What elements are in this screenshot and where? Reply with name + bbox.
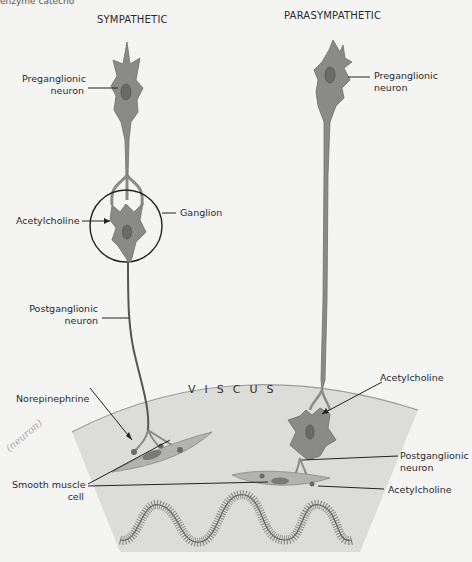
sympathetic-postganglionic-neuron bbox=[110, 203, 146, 262]
label-ganglion: Ganglion bbox=[180, 207, 222, 219]
label-para-acetylcholine-ganglion: Acetylcholine bbox=[380, 372, 444, 384]
label-para-postganglionic: Postganglionic neuron bbox=[400, 450, 469, 474]
label-sym-acetylcholine: Acetylcholine bbox=[16, 215, 80, 227]
label-norepinephrine: Norepinephrine bbox=[16, 393, 89, 405]
heading-sympathetic: SYMPATHETIC bbox=[97, 14, 168, 25]
heading-parasympathetic: PARASYMPATHETIC bbox=[284, 10, 381, 21]
label-para-preganglionic: Preganglionic neuron bbox=[374, 70, 438, 94]
label-sym-preganglionic: Preganglionic neuron bbox=[22, 73, 84, 97]
label-smooth-muscle-cell: Smooth muscle cell bbox=[12, 479, 84, 503]
label-para-acetylcholine-effector: Acetylcholine bbox=[388, 484, 452, 496]
viscus-label: VISCUS bbox=[188, 383, 282, 396]
sympathetic-preganglionic-neuron bbox=[111, 42, 143, 175]
label-sym-postganglionic: Postganglionic neuron bbox=[22, 303, 98, 327]
parasympathetic-preganglionic-neuron bbox=[314, 40, 352, 390]
